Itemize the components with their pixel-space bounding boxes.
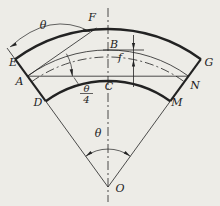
label-theta-quarter-numerator: θ [83, 83, 89, 94]
theta-bottom-left-arrowhead [86, 151, 93, 156]
label-D: D [33, 96, 43, 109]
quarter-angle-arrowhead [70, 69, 73, 76]
label-theta-top: θ [40, 19, 47, 32]
label-O: O [115, 182, 124, 195]
f-up-arrowhead [132, 60, 135, 67]
left-radial-DO [46, 101, 108, 187]
label-M: M [170, 96, 183, 109]
label-theta-quarter-denominator: 4 [82, 94, 89, 105]
label-theta-bottom: θ [95, 127, 102, 140]
quarter-angle-leader [74, 78, 79, 86]
right-radial-MO [108, 101, 170, 187]
f-down-arrowhead [132, 43, 135, 50]
label-G: G [205, 56, 214, 69]
theta-top-left-arrowhead [10, 42, 17, 47]
label-E: E [8, 56, 17, 69]
label-N: N [189, 79, 200, 92]
geometry-diagram: E F G A B C D N M O θ θ θ 4 f [0, 0, 220, 206]
theta-bottom-right-arrowhead [124, 151, 131, 156]
label-F: F [87, 11, 96, 24]
label-f-deflection: f [117, 51, 124, 64]
label-A: A [15, 75, 24, 88]
theta-top-arc [10, 24, 90, 47]
arc-sector-figure: E F G A B C D N M O θ θ θ 4 f [0, 0, 220, 206]
label-B: B [109, 38, 118, 51]
label-C: C [105, 80, 114, 93]
